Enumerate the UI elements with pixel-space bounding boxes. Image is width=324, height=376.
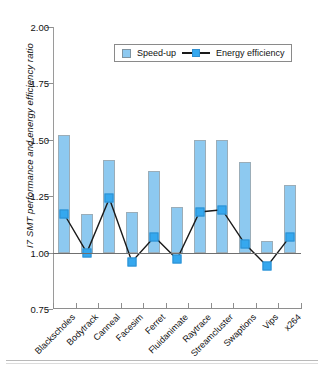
legend-line-segment-right — [200, 52, 210, 54]
marker-canneal — [105, 194, 114, 203]
legend-line-energy — [182, 49, 210, 57]
marker-fluidanimate — [173, 255, 182, 264]
marker-raytrace — [195, 207, 204, 216]
chart-figure: I7 SMT performance and energy efficiency… — [0, 0, 324, 376]
marker-x264 — [285, 232, 294, 241]
marker-blackscholes — [60, 210, 69, 219]
legend-label-speedup: Speed-up — [137, 48, 176, 58]
y-tick-label: 1.25 — [31, 191, 50, 202]
y-axis-title: I7 SMT performance and energy efficiency… — [24, 21, 35, 271]
y-tick-label: 1.50 — [31, 134, 50, 145]
marker-facesim — [127, 257, 136, 266]
legend-label-energy: Energy efficiency — [216, 48, 284, 58]
marker-ferret — [150, 232, 159, 241]
legend-swatch-speedup — [122, 49, 131, 58]
legend-line-segment-left — [182, 52, 192, 54]
footer-divider-secondary — [6, 363, 318, 364]
y-tick-label: 2.00 — [31, 22, 50, 33]
y-tick-label: 0.75 — [31, 304, 50, 315]
plot-area: 2.001.751.501.251.000.75 — [53, 27, 301, 309]
x-tick — [301, 303, 302, 309]
y-tick-label: 1.75 — [31, 78, 50, 89]
marker-swaptions — [240, 239, 249, 248]
marker-vips — [263, 262, 272, 271]
x-label-x264: x264 — [282, 312, 303, 333]
footer-divider — [6, 360, 318, 361]
y-tick-label: 1.00 — [31, 247, 50, 258]
legend-square-icon — [192, 49, 200, 57]
chart-legend: Speed-up Energy efficiency — [114, 44, 292, 62]
marker-streamcluster — [218, 205, 227, 214]
baseline-1.00 — [53, 253, 301, 254]
x-label-vips: Vips — [261, 312, 280, 331]
